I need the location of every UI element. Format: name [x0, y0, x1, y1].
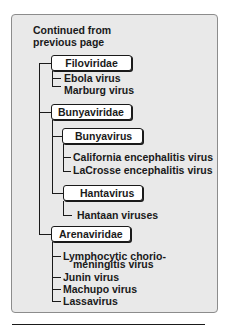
- bunyavirus-branch-line: [63, 144, 64, 172]
- continued-heading: Continued from previous page: [33, 24, 111, 48]
- connector-bunyavirus: [52, 136, 62, 137]
- node-arenaviridae: Arenaviridae: [51, 226, 131, 242]
- connector-machupo: [52, 289, 61, 290]
- connector-filoviridae: [39, 63, 51, 64]
- connector-lacrosse: [63, 171, 71, 172]
- node-hantavirus: Hantavirus: [63, 185, 143, 201]
- leaf-california-encephalitis-virus: California encephalitis virus: [73, 151, 213, 163]
- bottom-rule: [12, 324, 205, 325]
- leaf-junin-virus: Junin virus: [63, 271, 119, 283]
- leaf-lymphocytic-choriomeningitis-line2: meningitis virus: [73, 259, 154, 270]
- connector-hantavirus: [52, 193, 63, 194]
- leaf-marburg-virus: Marburg virus: [64, 84, 134, 96]
- node-filoviridae: Filoviridae: [51, 55, 132, 71]
- leaf-lassavirus: Lassavirus: [63, 295, 118, 307]
- connector-marburg: [52, 86, 61, 87]
- connector-california: [63, 157, 71, 158]
- arenaviridae-branch-line: [52, 242, 53, 301]
- node-bunyaviridae: Bunyaviridae: [51, 104, 132, 120]
- leaf-hantaan-viruses: Hantaan viruses: [77, 209, 158, 221]
- connector-junin: [52, 277, 61, 278]
- connector-lassavirus: [52, 301, 61, 302]
- bunyaviridae-branch-line: [52, 120, 53, 193]
- leaf-lacrosse-encephalitis-virus: LaCrosse encephalitis virus: [73, 164, 212, 176]
- connector-arenaviridae: [39, 234, 51, 235]
- main-trunk-line: [39, 63, 40, 235]
- leaf-ebola-virus: Ebola virus: [64, 72, 121, 84]
- hantavirus-branch-line: [63, 201, 64, 215]
- connector-ebola: [52, 78, 61, 79]
- connector-hantaan: [63, 215, 72, 216]
- connector-bunyaviridae: [39, 112, 51, 113]
- connector-lymphocytic: [52, 256, 61, 257]
- leaf-machupo-virus: Machupo virus: [63, 283, 137, 295]
- node-bunyavirus: Bunyavirus: [62, 128, 143, 144]
